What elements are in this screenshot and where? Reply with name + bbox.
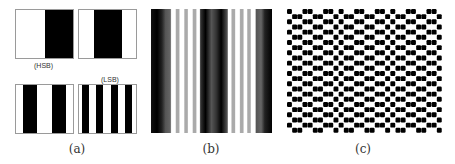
pattern-dot xyxy=(380,9,385,14)
pattern-dot xyxy=(339,123,344,128)
pattern-dot xyxy=(411,50,416,55)
pattern-dot xyxy=(328,112,333,117)
pattern-dot xyxy=(328,81,333,86)
pattern-dot xyxy=(308,61,313,66)
pattern-dot xyxy=(390,102,395,107)
pattern-dot xyxy=(370,35,375,40)
pattern-dot xyxy=(303,92,308,97)
pattern-dot xyxy=(432,112,437,117)
pattern-dot xyxy=(344,107,349,112)
pattern-dot xyxy=(339,71,344,76)
pattern-dot xyxy=(313,87,318,92)
pattern-dot xyxy=(297,14,302,19)
pattern-dot xyxy=(323,92,328,97)
pattern-dot xyxy=(411,30,416,35)
pattern-dot xyxy=(339,19,344,24)
pattern-dot xyxy=(416,45,421,50)
pattern-dot xyxy=(385,107,390,112)
pattern-dot xyxy=(406,40,411,45)
pattern-dot xyxy=(396,128,401,133)
pattern-dot xyxy=(406,71,411,76)
pattern-dot xyxy=(375,92,380,97)
pattern-dot xyxy=(292,45,297,50)
pattern-dot xyxy=(406,102,411,107)
pattern-dot xyxy=(416,87,421,92)
pattern-dot xyxy=(287,112,292,117)
pattern-dot xyxy=(303,81,308,86)
pattern-dot xyxy=(437,45,442,50)
pattern-dot xyxy=(401,87,406,92)
pattern-dot xyxy=(432,102,437,107)
pattern-dot xyxy=(287,30,292,35)
pattern-dot xyxy=(370,97,375,102)
pattern-dot xyxy=(297,76,302,81)
pattern-dot xyxy=(380,102,385,107)
pattern-dot xyxy=(354,102,359,107)
pattern-dot xyxy=(354,123,359,128)
pattern-dot xyxy=(318,107,323,112)
pattern-dot xyxy=(370,45,375,50)
pattern-dot xyxy=(411,40,416,45)
pattern-dot xyxy=(375,112,380,117)
pattern-dot xyxy=(401,76,406,81)
pattern-dot xyxy=(313,45,318,50)
pattern-dot xyxy=(323,61,328,66)
pattern-dot xyxy=(354,40,359,45)
pattern-dot xyxy=(328,71,333,76)
pattern-dot xyxy=(406,123,411,128)
pattern-dot xyxy=(427,81,432,86)
pattern-dot xyxy=(297,25,302,30)
pattern-dot xyxy=(328,92,333,97)
pattern-dot xyxy=(421,87,426,92)
pattern-dot xyxy=(318,56,323,61)
pattern-dot xyxy=(308,81,313,86)
pattern-dot xyxy=(303,50,308,55)
pattern-dot xyxy=(421,56,426,61)
pattern-dot xyxy=(432,50,437,55)
pattern-dot xyxy=(303,71,308,76)
pattern-dot xyxy=(385,97,390,102)
pattern-dot xyxy=(328,30,333,35)
pattern-dot xyxy=(411,112,416,117)
pattern-dot xyxy=(421,35,426,40)
pattern-dot xyxy=(390,9,395,14)
pattern-dot xyxy=(318,45,323,50)
pattern-dot xyxy=(328,61,333,66)
pattern-dot xyxy=(334,118,339,123)
pattern-dot xyxy=(390,61,395,66)
pattern-dot xyxy=(292,87,297,92)
pattern-dot xyxy=(334,56,339,61)
pattern-dot xyxy=(396,56,401,61)
pattern-dot xyxy=(416,35,421,40)
pattern-dot xyxy=(380,30,385,35)
pattern-dot xyxy=(411,102,416,107)
pattern-dot xyxy=(334,128,339,133)
pattern-dot xyxy=(359,102,364,107)
pattern-dot xyxy=(421,66,426,71)
pattern-dot xyxy=(313,97,318,102)
pattern-dot xyxy=(287,61,292,66)
pattern-dot xyxy=(375,19,380,24)
pattern-dot xyxy=(292,56,297,61)
pattern-dot xyxy=(375,50,380,55)
pattern-dot xyxy=(328,9,333,14)
pattern-dot xyxy=(339,92,344,97)
pattern-dot xyxy=(359,71,364,76)
pattern-dot xyxy=(328,123,333,128)
pattern-dot xyxy=(287,40,292,45)
pattern-dot xyxy=(287,19,292,24)
pattern-dot xyxy=(401,56,406,61)
pattern-dot xyxy=(313,35,318,40)
pattern-dot xyxy=(349,107,354,112)
pattern-dot xyxy=(349,118,354,123)
pattern-dot xyxy=(328,19,333,24)
pattern-dot xyxy=(359,40,364,45)
pattern-dot xyxy=(421,25,426,30)
pattern-dot xyxy=(427,61,432,66)
pattern-dot xyxy=(411,9,416,14)
pattern-dot xyxy=(287,9,292,14)
pattern-dot xyxy=(437,76,442,81)
pattern-dot xyxy=(390,71,395,76)
pattern-dot xyxy=(287,71,292,76)
pattern-dot xyxy=(287,102,292,107)
